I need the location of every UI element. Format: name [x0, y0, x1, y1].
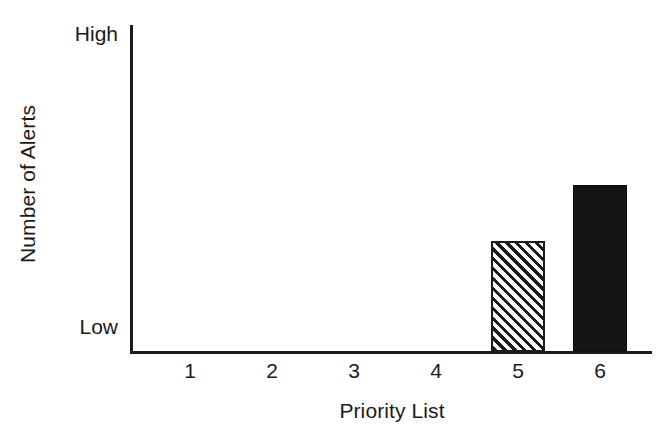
bar-6 — [573, 185, 627, 352]
y-axis-title: Number of Alerts — [16, 64, 40, 304]
x-tick-label-5: 5 — [488, 359, 548, 383]
x-axis-title: Priority List — [131, 399, 653, 423]
x-tick-label-1: 1 — [160, 359, 220, 383]
y-tick-label-high: High — [0, 22, 118, 46]
bar-chart: High Low Number of Alerts 123456 Priorit… — [0, 0, 664, 445]
y-tick-label-low: Low — [0, 315, 118, 339]
x-tick-label-3: 3 — [324, 359, 384, 383]
x-tick-label-6: 6 — [570, 359, 630, 383]
bar-5 — [491, 241, 545, 352]
x-tick-label-4: 4 — [406, 359, 466, 383]
x-tick-label-2: 2 — [242, 359, 302, 383]
y-axis-line — [130, 25, 133, 354]
